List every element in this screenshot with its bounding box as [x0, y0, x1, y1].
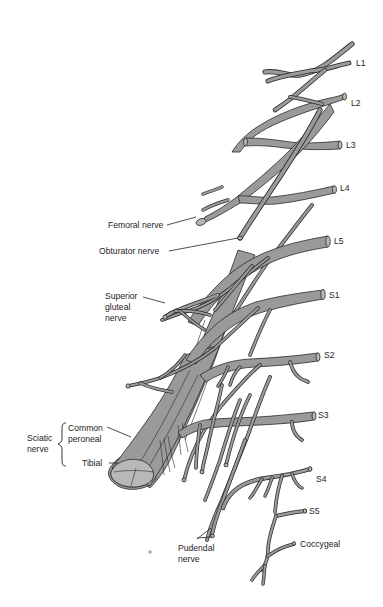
- label-s3: S3: [318, 410, 329, 420]
- coccygeal-nerve: [252, 542, 295, 585]
- label-superior-gluteal-line1: Superior: [105, 291, 138, 301]
- label-common-peroneal-line2: peroneal: [68, 434, 102, 444]
- label-superior-gluteal-line2: gluteal: [105, 302, 130, 312]
- label-l4: L4: [340, 183, 350, 193]
- label-l3: L3: [346, 140, 356, 150]
- nerve-root-s3: [178, 377, 316, 540]
- label-l5: L5: [334, 236, 344, 246]
- label-pudendal-line2: nerve: [178, 554, 200, 564]
- label-l1: L1: [356, 58, 366, 68]
- label-s5: S5: [309, 506, 320, 516]
- obturator-leader: [169, 238, 238, 251]
- label-sciatic-line1: Sciatic: [27, 433, 53, 443]
- superior-gluteal-leader: [143, 297, 165, 303]
- common-peroneal-leader: [107, 427, 131, 437]
- label-l2: L2: [351, 98, 361, 108]
- label-sciatic-line2: nerve: [27, 444, 49, 454]
- label-coccygeal: Coccygeal: [300, 539, 340, 549]
- label-common-peroneal-line1: Common: [68, 423, 103, 433]
- stray-dot: [148, 550, 152, 554]
- lumbosacral-plexus-diagram: L1 L2 L3 L4 L5 S1 S2 S3 S4 S5 Coccygeal …: [0, 0, 383, 607]
- label-tibial: Tibial: [82, 458, 102, 468]
- label-s1: S1: [329, 290, 340, 300]
- femoral-leader: [167, 217, 196, 225]
- label-obturator-nerve: Obturator nerve: [99, 246, 159, 256]
- label-s4: S4: [316, 474, 327, 484]
- label-superior-gluteal-line3: nerve: [105, 313, 127, 323]
- sciatic-brace: [58, 423, 66, 466]
- nerve-root-s4: [223, 467, 312, 512]
- label-femoral-nerve: Femoral nerve: [108, 220, 164, 230]
- label-s2: S2: [324, 350, 335, 360]
- label-pudendal-line1: Pudendal: [178, 543, 214, 553]
